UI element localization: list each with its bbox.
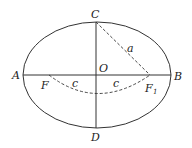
- label-F1: F: [144, 82, 153, 95]
- label-c-left: c: [72, 77, 78, 90]
- label-c-right: c: [113, 77, 119, 90]
- arc-c: [49, 75, 150, 94]
- ellipse-diagram: C D A B O F F 1 a c c: [0, 0, 192, 148]
- label-B: B: [173, 70, 182, 83]
- label-a: a: [127, 42, 134, 55]
- label-F1-subscript: 1: [153, 88, 157, 96]
- label-O: O: [99, 62, 108, 75]
- label-F: F: [40, 79, 49, 92]
- label-A: A: [11, 69, 20, 82]
- label-D: D: [90, 131, 100, 144]
- label-C: C: [91, 8, 100, 21]
